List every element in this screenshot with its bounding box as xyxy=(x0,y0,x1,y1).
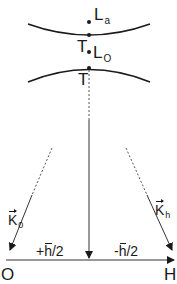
dispersion-surface-diagram: La T LO T K0 Kh +h/2 -h/2 O H xyxy=(0,0,177,284)
k0-dashed xyxy=(32,148,52,195)
lo-label: LO xyxy=(93,44,111,61)
lo-sub: O xyxy=(103,53,111,64)
right-shift-tail: /2 xyxy=(126,243,138,259)
kh-main: K xyxy=(155,203,164,217)
la-main: L xyxy=(94,5,103,24)
kh-dashed xyxy=(126,148,147,195)
left-shift-sign: + xyxy=(36,243,44,259)
t-lower-label: T xyxy=(78,71,88,88)
la-sub: a xyxy=(104,15,110,26)
origin-label: O xyxy=(1,266,14,283)
t-upper-point xyxy=(87,33,91,37)
la-point xyxy=(87,20,91,24)
left-shift-symbol: h xyxy=(44,244,52,258)
diagram-lines xyxy=(0,0,177,284)
left-shift-label: +h/2 xyxy=(36,244,64,258)
k0-main: K xyxy=(8,213,17,227)
k0-sub: 0 xyxy=(18,220,23,230)
right-shift-symbol: h xyxy=(119,244,127,258)
kh-sub: h xyxy=(165,210,170,220)
la-label: La xyxy=(94,6,110,23)
left-shift-tail: /2 xyxy=(52,243,64,259)
lo-main: L xyxy=(93,43,102,62)
lo-point xyxy=(87,50,91,54)
t-upper-label: T xyxy=(77,38,87,55)
kh-label: Kh xyxy=(155,203,170,217)
right-shift-label: -h/2 xyxy=(114,244,138,258)
h-label: H xyxy=(164,266,176,283)
k0-label: K0 xyxy=(8,213,23,227)
